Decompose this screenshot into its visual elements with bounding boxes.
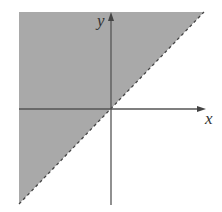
x-axis-label: x [204,109,213,128]
y-axis-label: y [95,11,105,30]
inequality-graph: y x [0,0,222,212]
